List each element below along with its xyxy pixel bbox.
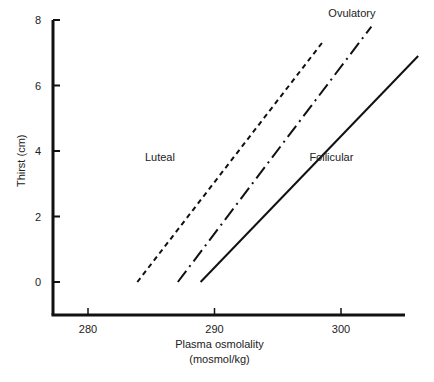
series-line-follicular xyxy=(201,56,419,282)
y-axis-title: Thirst (cm) xyxy=(15,135,27,188)
x-tick-label: 300 xyxy=(332,323,350,335)
x-axis-units: (mosmol/kg) xyxy=(189,353,250,365)
y-tick-label: 4 xyxy=(35,145,41,157)
x-tick-label: 290 xyxy=(205,323,223,335)
thirst-osmolality-chart: 02468280290300Thirst (cm)Plasma osmolali… xyxy=(0,0,434,382)
series-label-follicular: Follicular xyxy=(309,151,353,163)
x-axis-title: Plasma osmolality xyxy=(175,338,264,350)
y-tick-label: 0 xyxy=(35,276,41,288)
x-tick-label: 280 xyxy=(79,323,97,335)
series-label-ovulatory: Ovulatory xyxy=(328,7,376,19)
y-tick-label: 2 xyxy=(35,211,41,223)
y-tick-label: 8 xyxy=(35,14,41,26)
labels: LutealOvulatoryFollicular xyxy=(145,7,376,163)
series-lines xyxy=(137,27,418,282)
series-label-luteal: Luteal xyxy=(145,151,175,163)
y-tick-label: 6 xyxy=(35,80,41,92)
